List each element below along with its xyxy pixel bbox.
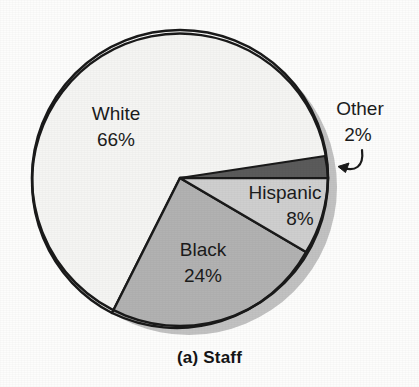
figure-caption: (a) Staff: [0, 348, 419, 368]
callout-other: Other 2%: [336, 98, 384, 172]
figure-caption-text: Staff: [203, 348, 242, 367]
pie-chart-figure: White 66% Black 24% Hispanic 8% Other 2%…: [0, 0, 419, 387]
slice-label-hispanic-name: Hispanic: [249, 182, 322, 203]
slice-label-white-value: 66%: [97, 129, 135, 150]
slice-label-white-name: White: [92, 103, 141, 124]
callout-label-other-name: Other: [336, 98, 384, 119]
callout-arrow-other-head: [338, 163, 349, 173]
staff-race-pie-chart: White 66% Black 24% Hispanic 8% Other 2%: [0, 0, 419, 387]
callout-label-other-value: 2%: [344, 124, 372, 145]
figure-caption-index: (a): [177, 348, 198, 367]
slice-label-black-value: 24%: [184, 265, 222, 286]
slice-label-black-name: Black: [180, 239, 227, 260]
slice-label-hispanic-value: 8%: [286, 208, 314, 229]
